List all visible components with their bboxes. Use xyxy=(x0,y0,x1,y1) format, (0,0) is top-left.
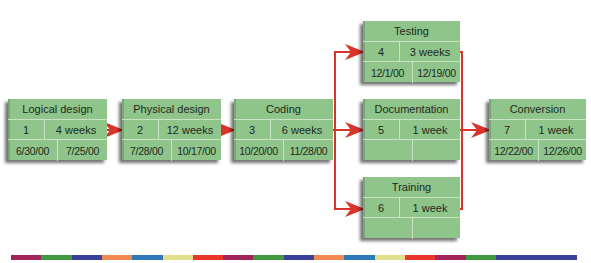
color-bar-segment xyxy=(193,255,224,260)
node-physical-design: Physical design 212 weeks 7/28/0010/17/0… xyxy=(122,99,221,160)
node-number: 4 xyxy=(363,42,400,62)
node-logical-design: Logical design 14 weeks 6/30/007/25/00 xyxy=(8,99,107,160)
node-title: Documentation xyxy=(363,99,460,119)
node-start-date: 12/1/00 xyxy=(363,62,413,83)
node-duration: 1 week xyxy=(400,198,460,218)
color-bar-segment xyxy=(435,255,466,260)
node-duration: 1 week xyxy=(400,120,460,140)
node-start-date: 12/22/00 xyxy=(489,140,539,161)
color-bar-segment xyxy=(284,255,315,260)
node-start-date: 6/30/00 xyxy=(8,140,58,161)
color-bar-segment xyxy=(253,255,284,260)
node-end-date: 7/25/00 xyxy=(58,140,107,161)
node-end-date: 12/26/00 xyxy=(539,140,586,161)
color-bar-segment xyxy=(132,255,163,260)
color-bar-segment xyxy=(375,255,406,260)
node-end-date: 12/19/00 xyxy=(413,62,460,83)
node-coding: Coding 36 weeks 10/20/0011/28/00 xyxy=(234,99,333,160)
node-number: 7 xyxy=(489,120,526,140)
node-number: 6 xyxy=(363,198,400,218)
node-start-date: 10/20/00 xyxy=(234,140,284,161)
node-duration: 6 weeks xyxy=(271,120,333,140)
color-bar-segment xyxy=(223,255,254,260)
node-start-date xyxy=(363,140,413,161)
color-bar-segment xyxy=(314,255,345,260)
color-bar-segment xyxy=(496,255,577,260)
node-end-date: 10/17/00 xyxy=(172,140,221,161)
node-number: 5 xyxy=(363,120,400,140)
node-conversion: Conversion 71 week 12/22/0012/26/00 xyxy=(489,99,586,160)
node-end-date: 11/28/00 xyxy=(284,140,333,161)
color-bar-segment xyxy=(466,255,497,260)
node-title: Physical design xyxy=(122,99,221,119)
color-bar-segment xyxy=(11,255,42,260)
node-number: 1 xyxy=(8,120,45,140)
node-duration: 4 weeks xyxy=(45,120,107,140)
node-title: Testing xyxy=(363,21,460,41)
node-start-date xyxy=(363,218,413,239)
node-testing: Testing 43 weeks 12/1/0012/19/00 xyxy=(363,21,460,82)
node-training: Training 61 week xyxy=(363,177,460,238)
node-title: Logical design xyxy=(8,99,107,119)
node-number: 3 xyxy=(234,120,271,140)
color-bar-segment xyxy=(102,255,133,260)
node-number: 2 xyxy=(122,120,159,140)
node-duration: 1 week xyxy=(526,120,586,140)
color-bar-segment xyxy=(163,255,194,260)
node-duration: 3 weeks xyxy=(400,42,460,62)
node-documentation: Documentation 51 week xyxy=(363,99,460,160)
color-bar-segment xyxy=(41,255,72,260)
node-title: Training xyxy=(363,177,460,197)
node-title: Conversion xyxy=(489,99,586,119)
color-bar-segment xyxy=(405,255,436,260)
node-start-date: 7/28/00 xyxy=(122,140,172,161)
color-bar-segment xyxy=(72,255,103,260)
node-end-date xyxy=(413,218,460,239)
node-end-date xyxy=(413,140,460,161)
node-duration: 12 weeks xyxy=(159,120,221,140)
color-bar-segment xyxy=(344,255,375,260)
node-title: Coding xyxy=(234,99,333,119)
